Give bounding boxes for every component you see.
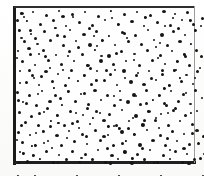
stipple-dot [203, 153, 204, 155]
stipple-dot [17, 175, 19, 176]
plot-frame-top-edge [14, 6, 194, 8]
plot-frame-left-edge [13, 6, 16, 165]
stipple-dot [196, 110, 198, 112]
stipple-dot [201, 17, 204, 20]
figure-root [0, 0, 204, 176]
stipple-dot [202, 135, 204, 138]
stipple-dot [160, 175, 162, 176]
stipple-dot [201, 97, 203, 99]
stipple-dot [118, 175, 120, 176]
stipple-dot [200, 25, 202, 27]
plot-frame-bottom-edge [13, 161, 196, 164]
stipple-dot [197, 142, 200, 145]
stipple-dot [199, 67, 201, 69]
stipple-dot [199, 157, 202, 160]
plot-frame-right-edge [194, 6, 195, 163]
plot-frame-interior [13, 6, 196, 163]
stipple-dot [196, 70, 199, 73]
stipple-dot [76, 175, 78, 176]
stipple-dot [34, 175, 36, 176]
stipple-dot [202, 175, 204, 176]
stipple-dot [200, 55, 203, 58]
